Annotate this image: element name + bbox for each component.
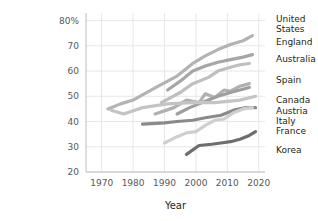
legend-label-australia: Australia [276,54,316,64]
x-axis-tick-label: 1970 [90,178,113,188]
legend-label-united-states: States [276,24,305,34]
y-axis-tick-label: 60 [68,66,80,76]
legend-label-england: England [276,37,313,47]
legend-label-austria: Austria [276,106,308,116]
legend-label-france: France [276,126,306,136]
y-axis-tick-label: 80% [59,16,79,26]
y-axis-tick-label: 30 [68,142,80,152]
x-axis-tick-label: 2010 [216,178,239,188]
y-axis-tick-label: 40 [68,117,80,127]
y-axis-tick-label: 50 [68,91,80,101]
line-chart: 20304050607080%197019801990200020102020Y… [0,0,318,221]
legend-label-korea: Korea [276,145,302,155]
plot-area [86,13,265,172]
y-axis-tick-label: 70 [68,41,80,51]
y-axis-tick-label: 20 [68,167,80,177]
x-axis-tick-label: 2020 [247,178,270,188]
legend-label-italy: Italy [276,116,296,126]
x-axis-tick-label: 1980 [122,178,145,188]
chart-canvas: 20304050607080%197019801990200020102020Y… [0,0,318,221]
x-axis-tick-label: 2000 [184,178,207,188]
legend-label-spain: Spain [276,75,301,85]
legend-label-united-states: United [276,14,306,24]
x-axis-title: Year [164,200,187,211]
x-axis-tick-label: 1990 [153,178,176,188]
legend-label-canada: Canada [276,95,310,105]
